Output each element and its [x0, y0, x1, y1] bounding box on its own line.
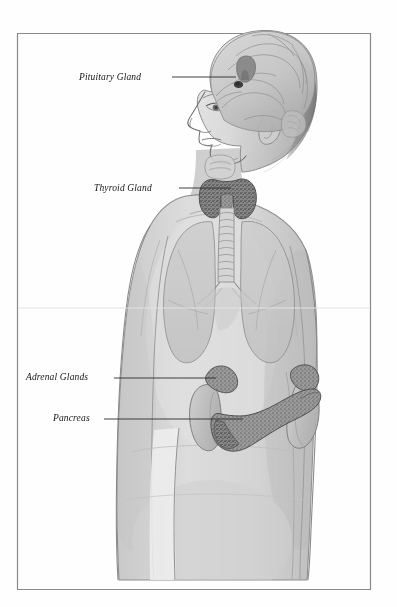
label-pituitary-gland: Pituitary Gland: [79, 72, 141, 82]
brain: [211, 31, 315, 137]
label-thyroid-gland: Thyroid Gland: [94, 183, 152, 193]
label-adrenal-glands: Adrenal Glands: [26, 372, 88, 382]
illustration-canvas: Pituitary Gland Thyroid Gland Adrenal Gl…: [0, 0, 397, 607]
larynx: [205, 155, 235, 179]
label-pancreas: Pancreas: [53, 413, 90, 423]
anatomy-illustration: [0, 0, 397, 607]
